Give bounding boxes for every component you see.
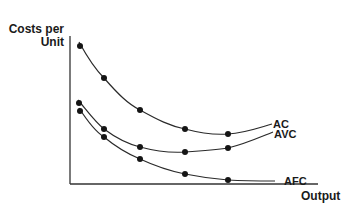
y-axis-label-line1: Costs per	[9, 22, 65, 36]
afc-points	[77, 108, 231, 183]
ac-points	[77, 43, 231, 137]
ac-curve	[79, 42, 272, 134]
afc-label: AFC	[284, 175, 307, 187]
avc-label: AVC	[274, 128, 296, 140]
y-axis-label-line2: Unit	[41, 35, 64, 49]
avc-points	[76, 100, 231, 155]
cost-curves-chart: Costs per Unit Output AC AVC AFC	[0, 0, 360, 216]
x-axis-label: Output	[301, 189, 340, 203]
afc-curve	[79, 108, 275, 181]
